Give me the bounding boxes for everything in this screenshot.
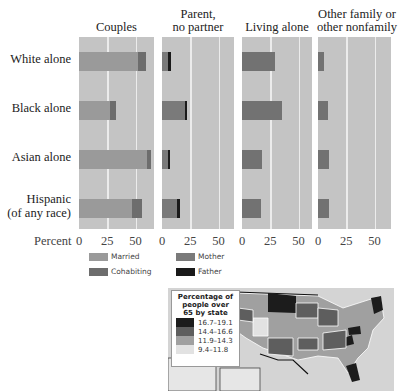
legend-swatch-cohabiting — [89, 268, 108, 276]
bar-other — [318, 52, 324, 71]
axis-label-percent: Percent — [34, 234, 71, 249]
x-tick-label: 25 — [264, 234, 277, 249]
panel-couples — [79, 37, 154, 229]
x-tick-label: 50 — [212, 234, 225, 249]
bar-living-alone — [242, 101, 282, 120]
panel-title-living-alone: Living alone — [236, 21, 318, 34]
map-legend-swatch — [176, 345, 194, 354]
map-legend-bin-label: 14.4–16.6 — [198, 328, 233, 336]
x-tick-label: 25 — [184, 234, 197, 249]
panel-title-parent-2: no partner — [158, 21, 238, 34]
bar-other — [318, 150, 329, 169]
gridline — [375, 37, 377, 229]
map-legend-swatch — [176, 327, 194, 336]
panel-other — [318, 37, 391, 229]
bar-other — [318, 101, 328, 120]
x-tick-label: 25 — [101, 234, 114, 249]
bar-living-alone — [242, 52, 275, 71]
panel-living-alone — [242, 37, 312, 229]
x-tick-label: 0 — [159, 234, 165, 249]
bar-other — [318, 199, 329, 218]
map-legend-title-3: 65 by state — [172, 309, 239, 317]
bar-cohabiting — [132, 199, 142, 218]
map-legend-bin-label: 9.4–11.8 — [198, 346, 228, 354]
bar-cohabiting — [147, 150, 152, 169]
map-legend-bin: 14.4–16.6 — [176, 327, 239, 336]
legend-swatch-father — [176, 268, 195, 276]
bar-married — [79, 150, 147, 169]
panel-title-other-2: other nonfamily — [312, 21, 402, 34]
bar-living-alone — [242, 199, 261, 218]
gridline — [299, 37, 301, 229]
map-legend-bin: 11.9–14.3 — [176, 336, 239, 345]
legend-label-cohabiting: Cohabiting — [111, 267, 152, 276]
bar-father — [185, 101, 187, 120]
legend-swatch-mother — [176, 253, 195, 261]
bar-mother — [162, 199, 177, 218]
row-label-asian: Asian alone — [12, 151, 71, 164]
legend-swatch-married — [89, 253, 108, 261]
x-tick-label: 0 — [76, 234, 82, 249]
map-legend-title-1: Percentage of — [172, 293, 239, 301]
x-tick-label: 50 — [368, 234, 381, 249]
row-label-black: Black alone — [12, 102, 71, 115]
bar-married — [79, 101, 110, 120]
bar-cohabiting — [110, 101, 117, 120]
legend-label-married: Married — [111, 252, 140, 261]
map-legend-bin: 9.4–11.8 — [176, 345, 239, 354]
bar-father — [168, 52, 171, 71]
gridline — [190, 37, 192, 229]
map-legend-swatch — [176, 318, 194, 327]
gridline — [346, 37, 348, 229]
x-tick-label: 50 — [129, 234, 142, 249]
legend-label-mother: Mother — [198, 252, 224, 261]
map-legend-swatch — [176, 336, 194, 345]
panel-title-couples: Couples — [79, 21, 154, 34]
gridline — [219, 37, 221, 229]
bar-father — [177, 199, 180, 218]
panel-parent-no-partner — [162, 37, 234, 229]
map-legend: Percentage of people over 65 by state 16… — [171, 290, 240, 367]
legend-label-father: Father — [198, 267, 222, 276]
bar-father — [168, 150, 170, 169]
bar-married — [79, 52, 138, 71]
x-tick-label: 25 — [340, 234, 353, 249]
bar-living-alone — [242, 150, 262, 169]
row-label-hispanic-1: Hispanic — [27, 193, 71, 206]
x-tick-label: 50 — [292, 234, 305, 249]
map-legend-bin-label: 11.9–14.3 — [198, 337, 233, 345]
x-tick-label: 0 — [315, 234, 321, 249]
map-legend-title-2: people over — [172, 301, 239, 309]
bar-mother — [162, 101, 185, 120]
row-label-white: White alone — [10, 53, 71, 66]
map-legend-bin-label: 16.7–19.1 — [198, 319, 233, 327]
x-tick-label: 0 — [239, 234, 245, 249]
bar-married — [79, 199, 132, 218]
map-legend-bin: 16.7–19.1 — [176, 318, 239, 327]
row-label-hispanic-2: (of any race) — [7, 207, 71, 220]
bar-cohabiting — [138, 52, 146, 71]
